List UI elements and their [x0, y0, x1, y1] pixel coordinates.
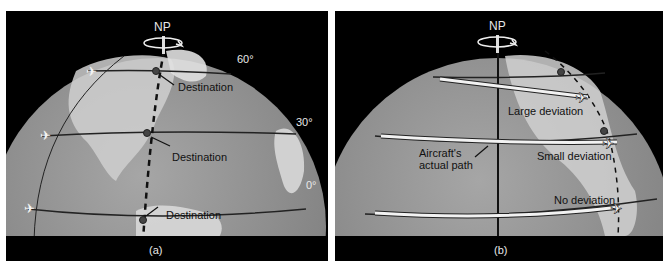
destination-dot-60 [153, 68, 160, 75]
destination-label-30: Destination [172, 151, 227, 163]
destination-dot-b-30 [601, 128, 608, 135]
globe-b-svg: ✈ ✈ ✈ Large deviation Small deviation No… [335, 11, 663, 261]
path-label-line2: actual path [419, 159, 473, 171]
latitude-label-30: 30° [296, 116, 313, 128]
deviation-label-none: No deviation [554, 194, 615, 206]
deviation-label-small: Small deviation [537, 150, 612, 162]
panel-b: ✈ ✈ ✈ Large deviation Small deviation No… [335, 11, 663, 261]
deviation-label-large: Large deviation [508, 105, 583, 117]
destination-dot-b-60 [558, 69, 565, 76]
pole-label-a: NP [154, 20, 171, 34]
latitude-label-0: 0° [306, 179, 317, 191]
destination-label-60: Destination [178, 81, 233, 93]
panel-a-caption: (a) [149, 244, 162, 256]
airplane-icon-60: ✈ [86, 64, 97, 79]
airplane-icon-0: ✈ [24, 201, 35, 216]
airplane-icon-30: ✈ [40, 128, 51, 143]
panel-b-caption: (b) [494, 244, 507, 256]
destination-label-0: Destination [166, 209, 221, 221]
path-label-line1: Aircraft's [419, 147, 462, 159]
panel-a: ✈ ✈ ✈ Destination Destination Destinatio… [6, 11, 328, 261]
destination-dot-0 [140, 217, 147, 224]
globe-a-svg: ✈ ✈ ✈ Destination Destination Destinatio… [6, 11, 328, 261]
destination-dot-30 [144, 130, 151, 137]
airplane-icon-b-60: ✈ [575, 89, 588, 106]
latitude-label-60: 60° [237, 53, 254, 65]
pole-label-b: NP [489, 19, 506, 33]
